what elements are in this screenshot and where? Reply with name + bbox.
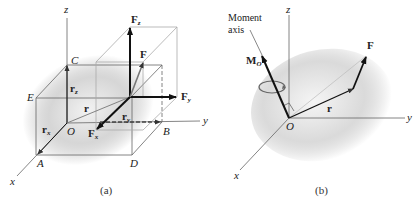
F-label-b: F (367, 40, 374, 51)
Fy-label: Fy (181, 91, 191, 104)
body-shading-b (238, 33, 406, 177)
F-label-a: F (140, 49, 147, 60)
origin-O-b: O (286, 121, 294, 132)
moment-axis-label-line2: axis (228, 25, 244, 35)
origin-O-a: O (67, 126, 75, 137)
x-axis-label-b: x (234, 170, 239, 181)
rz-label: rz (70, 83, 78, 96)
panel-b (238, 15, 406, 177)
point-D: D (130, 158, 138, 169)
caption-b: (b) (315, 184, 328, 196)
moment-axis-label-line1: Moment (228, 13, 262, 23)
r-label-b: r (327, 103, 332, 114)
point-B: B (163, 126, 170, 137)
diagram-canvas (0, 0, 420, 211)
Mo-label: MO (246, 55, 261, 68)
r-label-a: r (84, 103, 89, 114)
rx-label: rx (42, 124, 50, 137)
Fz-label: Fz (131, 14, 140, 27)
point-C: C (71, 55, 78, 66)
moment-axis-line (250, 30, 262, 55)
ry-label: ry (122, 111, 130, 124)
caption-a: (a) (100, 184, 112, 196)
y-axis-label-b: y (407, 112, 412, 123)
point-E: E (27, 92, 34, 103)
y-axis-label-a: y (203, 115, 208, 126)
point-A: A (37, 158, 44, 169)
z-axis-label-b: z (286, 4, 290, 15)
x-axis-label-a: x (10, 176, 15, 187)
z-axis-label-a: z (64, 4, 68, 15)
Fx-label: Fx (88, 128, 98, 141)
